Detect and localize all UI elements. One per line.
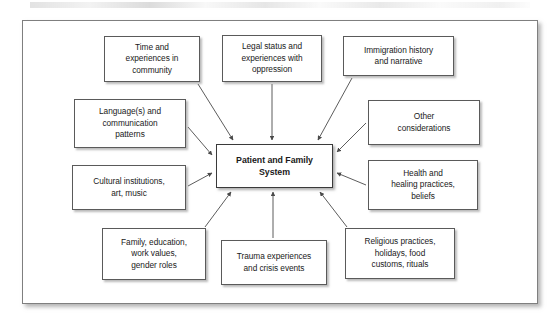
node-label-line: oppression <box>252 64 292 74</box>
arrow-health-to-center <box>337 173 366 185</box>
arrow-immigration-to-center <box>318 78 352 140</box>
node-label-line: art, music <box>111 188 146 198</box>
arrow-other-to-center <box>337 123 366 152</box>
node-label-line: Religious practices, <box>365 236 436 246</box>
node-label: Immigration history and narrative <box>364 45 433 68</box>
scan-artifact-strip <box>30 2 530 8</box>
node-label-line: healing practices, <box>391 179 455 189</box>
node-label-line: and narrative <box>375 56 423 66</box>
node-label-line: Immigration history <box>364 45 433 55</box>
node-label: Legal status and experiences with oppres… <box>242 41 303 75</box>
node-label-line: gender roles <box>131 260 177 270</box>
center-node-label: Patient and Family System <box>236 154 313 178</box>
node-label-line: Trauma experiences <box>237 251 311 261</box>
node-languages-and-communication-patterns: Language(s) and communication patterns <box>74 99 186 148</box>
node-label-line: community <box>132 65 172 75</box>
arrow-language-to-center <box>188 127 212 155</box>
node-label-line: Time and <box>135 42 169 52</box>
node-trauma-experiences-and-crisis-events: Trauma experiences and crisis events <box>221 240 327 285</box>
node-label-line: experiences in <box>126 53 179 63</box>
center-node-label-line: System <box>259 167 290 177</box>
node-label-line: beliefs <box>411 191 435 201</box>
node-family-education-work-values-gender-roles: Family, education, work values, gender r… <box>102 228 206 280</box>
node-label-line: Cultural institutions, <box>93 176 164 186</box>
node-label: Time and experiences in community <box>126 42 179 76</box>
node-label-line: customs, rituals <box>372 259 429 269</box>
node-health-and-healing-practices-beliefs: Health and healing practices, beliefs <box>368 160 478 210</box>
node-label-line: Language(s) and <box>99 106 161 116</box>
arrow-religious-to-center <box>320 192 347 227</box>
center-node-label-line: Patient and Family <box>236 155 313 165</box>
node-label-line: patterns <box>115 129 145 139</box>
arrow-cultural-to-center <box>188 173 212 186</box>
arrow-family-to-center <box>205 192 231 227</box>
node-label: Trauma experiences and crisis events <box>237 251 311 274</box>
node-label-line: considerations <box>398 123 451 133</box>
node-legal-status-and-experiences-with-oppression: Legal status and experiences with oppres… <box>222 35 322 82</box>
node-label: Language(s) and communication patterns <box>99 106 161 140</box>
node-label-line: and crisis events <box>244 263 305 273</box>
node-label: Cultural institutions, art, music <box>93 176 164 199</box>
node-label-line: Other <box>414 111 435 121</box>
node-patient-and-family-system: Patient and Family System <box>216 144 333 188</box>
node-other-considerations: Other considerations <box>368 100 480 145</box>
node-time-and-experiences-in-community: Time and experiences in community <box>104 36 200 82</box>
node-label-line: communication <box>102 118 157 128</box>
node-immigration-history-and-narrative: Immigration history and narrative <box>343 36 454 76</box>
arrow-time-to-center <box>198 84 233 140</box>
node-label-line: Family, education, <box>121 237 187 247</box>
node-label: Family, education, work values, gender r… <box>121 237 187 271</box>
node-label-line: work values, <box>131 248 177 258</box>
node-label-line: holidays, food <box>375 248 426 258</box>
node-label: Other considerations <box>398 111 451 134</box>
node-religious-practices-holidays-food-customs-rituals: Religious practices, holidays, food cust… <box>345 228 455 279</box>
node-label-line: experiences with <box>242 53 303 63</box>
node-label-line: Health and <box>403 168 443 178</box>
node-label-line: Legal status and <box>242 41 302 51</box>
node-cultural-institutions-art-music: Cultural institutions, art, music <box>72 165 186 210</box>
node-label: Health and healing practices, beliefs <box>391 168 455 202</box>
node-label: Religious practices, holidays, food cust… <box>365 236 436 270</box>
